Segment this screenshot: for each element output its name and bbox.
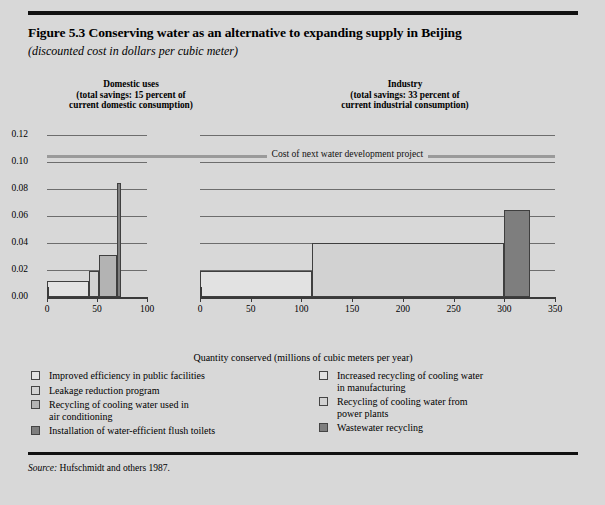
source-prefix: Source:: [28, 463, 57, 473]
y-tick-label-0.04: 0.04: [0, 237, 28, 247]
industry-x-tick-label-300: 300: [489, 304, 519, 314]
legend-industry-item-0: Increased recycling of cooling waterin m…: [318, 370, 580, 393]
industry-x-tick-150: [352, 297, 353, 302]
industry-x-tick-label-350: 350: [540, 304, 570, 314]
figure-title: Figure 5.3 Conserving water as an altern…: [28, 25, 462, 41]
legend-domestic-label-3: Installation of water-efficient flush to…: [49, 425, 215, 436]
legend-domestic-swatch-2: [31, 400, 40, 409]
industry-x-tick-label-150: 150: [337, 304, 367, 314]
figure-subtitle: (discounted cost in dollars per cubic me…: [28, 44, 238, 59]
legend-industry-label-2: Wastewater recycling: [337, 422, 423, 433]
industry-x-tick-label-100: 100: [286, 304, 316, 314]
gridline-right-0.10: [200, 162, 555, 163]
gridline-right-0.12: [200, 135, 555, 136]
reference-line-label: Cost of next water development project: [267, 148, 429, 159]
domestic-bar-1: [89, 271, 99, 297]
domestic-bar-0: [47, 281, 89, 297]
x-axis-title: Quantity conserved (millions of cubic me…: [28, 352, 578, 363]
domestic-x-tick-label-100: 100: [132, 304, 162, 314]
legend-industry-label-1: Recycling of cooling water frompower pla…: [337, 396, 468, 419]
bottom-rule: [28, 452, 578, 455]
legend-domestic-label-2: Recycling of cooling water used inair co…: [49, 399, 189, 422]
gridline-left-0.12: [47, 135, 147, 136]
legend-domestic-item-2: Recycling of cooling water used inair co…: [30, 399, 300, 422]
domestic-x-tick-label-0: 0: [32, 304, 62, 314]
figure-page: Figure 5.3 Conserving water as an altern…: [0, 0, 605, 505]
industry-x-tick-label-200: 200: [388, 304, 418, 314]
industry-x-tick-300: [504, 297, 505, 302]
legend-domestic-swatch-1: [31, 386, 40, 395]
domestic-x-tick-label-50: 50: [82, 304, 112, 314]
figure-container: Figure 5.3 Conserving water as an altern…: [28, 22, 578, 492]
legend-column-industry: Increased recycling of cooling waterin m…: [318, 370, 580, 437]
y-tick-label-0.10: 0.10: [0, 156, 28, 166]
legend-industry-item-1: Recycling of cooling water frompower pla…: [318, 396, 580, 419]
top-rule: [28, 11, 578, 15]
legend-domestic-swatch-3: [31, 426, 40, 435]
industry-bar-0: [200, 271, 312, 297]
industry-x-tick-250: [454, 297, 455, 302]
industry-x-tick-label-0: 0: [185, 304, 215, 314]
legend-industry-swatch-1: [319, 397, 328, 406]
legend-domestic-item-1: Leakage reduction program: [30, 385, 300, 397]
industry-bar-2: [504, 210, 529, 298]
industry-x-tick-label-50: 50: [236, 304, 266, 314]
legend-industry-item-2: Wastewater recycling: [318, 422, 580, 434]
domestic-bar-2: [99, 255, 117, 297]
y-tick-label-0.12: 0.12: [0, 129, 28, 139]
gridline-left-0.04: [47, 243, 147, 244]
plot-area: Cost of next water development project05…: [28, 122, 578, 297]
domestic-x-tick-0: [47, 297, 48, 302]
source-note: Source: Hufschmidt and others 1987.: [28, 463, 170, 473]
legend-domestic-label-1: Leakage reduction program: [49, 385, 160, 396]
panel-heading-domestic-line3: current domestic consumption): [36, 100, 226, 111]
legend-domestic-item-3: Installation of water-efficient flush to…: [30, 425, 300, 437]
domestic-bar-3: [117, 183, 121, 297]
gridline-left-0.10: [47, 162, 147, 163]
y-tick-label-0.02: 0.02: [0, 264, 28, 274]
panel-heading-industry-line2: (total savings: 33 percent of: [272, 90, 538, 101]
legend-industry-label-0: Increased recycling of cooling waterin m…: [337, 370, 483, 393]
industry-x-tick-100: [301, 297, 302, 302]
industry-x-tick-label-250: 250: [439, 304, 469, 314]
panel-heading-industry-line1: Industry: [272, 79, 538, 90]
panel-heading-domestic-line2: (total savings: 15 percent of: [36, 90, 226, 101]
panel-heading-domestic: Domestic uses (total savings: 15 percent…: [36, 79, 226, 111]
gridline-left-0.08: [47, 189, 147, 190]
y-tick-label-0.08: 0.08: [0, 183, 28, 193]
industry-bar-1: [312, 243, 505, 297]
industry-x-tick-50: [251, 297, 252, 302]
legend-domestic-swatch-0: [31, 371, 40, 380]
legend-industry-swatch-0: [319, 371, 328, 380]
industry-x-axis: [200, 297, 555, 299]
industry-x-tick-200: [403, 297, 404, 302]
legend-column-domestic: Improved efficiency in public facilities…: [30, 370, 300, 440]
legend-domestic-label-0: Improved efficiency in public facilities: [49, 370, 205, 381]
legend-domestic-item-0: Improved efficiency in public facilities: [30, 370, 300, 382]
panel-heading-industry-line3: current industrial consumption): [272, 100, 538, 111]
panel-heading-industry: Industry (total savings: 33 percent of c…: [272, 79, 538, 111]
gridline-right-0.06: [200, 216, 555, 217]
domestic-x-tick-100: [147, 297, 148, 302]
industry-x-tick-350: [555, 297, 556, 302]
y-axis-labels: 0.120.100.080.060.040.020.00: [0, 122, 28, 297]
y-tick-label-0.06: 0.06: [0, 210, 28, 220]
panel-heading-domestic-line1: Domestic uses: [36, 79, 226, 90]
gridline-right-0.08: [200, 189, 555, 190]
gridline-left-0.06: [47, 216, 147, 217]
source-text: Hufschmidt and others 1987.: [57, 463, 170, 473]
industry-x-tick-0: [200, 297, 201, 302]
y-tick-label-0.00: 0.00: [0, 291, 28, 301]
domestic-x-tick-50: [97, 297, 98, 302]
legend-industry-swatch-2: [319, 423, 328, 432]
